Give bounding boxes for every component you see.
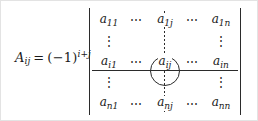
matrix-grid: a11 ⋯ a1j ⋯ a1n ⋮ ⋮ ⋮ ai1 ⋯ aij ⋯ ain ⋮ … [95,8,235,115]
matrix-hdots: ⋯ [130,98,144,110]
matrix-cell: ann [212,96,231,111]
matrix-cell: a1n [212,13,231,28]
matrix-vdots: ⋮ [215,78,227,88]
matrix-hdots: ⋯ [129,56,145,68]
matrix-vdots: ⋮ [103,78,115,88]
matrix-hdots: ⋯ [186,98,200,110]
matrix-cell: an1 [100,96,119,111]
matrix-vdots: ⋮ [215,37,227,47]
equals-sign: = [30,50,47,65]
matrix-cell-a-ij: aij [158,55,173,70]
matrix: a11 ⋯ a1j ⋯ a1n ⋮ ⋮ ⋮ ai1 ⋯ aij ⋯ ain ⋮ … [89,8,241,115]
matrix-symbol: A [15,50,25,65]
matrix-cell: a11 [100,13,119,28]
matrix-cell: a1j [156,13,174,28]
matrix-hdots: ⋯ [186,14,200,26]
matrix-vdots: ⋮ [103,37,115,47]
matrix-cell: ai1 [100,55,118,70]
matrix-cell: ain [212,55,230,70]
matrix-hdots: ⋯ [185,56,201,68]
matrix-right-delimiter [240,8,241,115]
minus-one: −1 [53,50,73,65]
matrix-cell: anj [156,96,174,111]
matrix-hdots: ⋯ [130,14,144,26]
formula-figure: Aij=(−1)i+j a11 ⋯ a1j ⋯ a1n ⋮ ⋮ ⋮ ai1 ⋯ … [0,0,258,121]
matrix-left-delimiter [89,8,90,115]
equation-lefthand-side: Aij=(−1)i+j [15,49,91,66]
